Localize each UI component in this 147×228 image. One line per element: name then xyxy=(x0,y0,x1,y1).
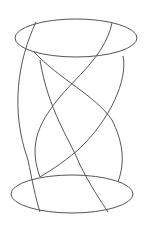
helix-strands xyxy=(18,22,124,212)
bottom-ellipse xyxy=(11,175,133,213)
strand-d xyxy=(40,56,124,177)
helix-figure xyxy=(0,0,147,228)
strand-e xyxy=(40,60,108,212)
helix-drawing xyxy=(0,0,147,228)
strand-c xyxy=(33,51,122,182)
